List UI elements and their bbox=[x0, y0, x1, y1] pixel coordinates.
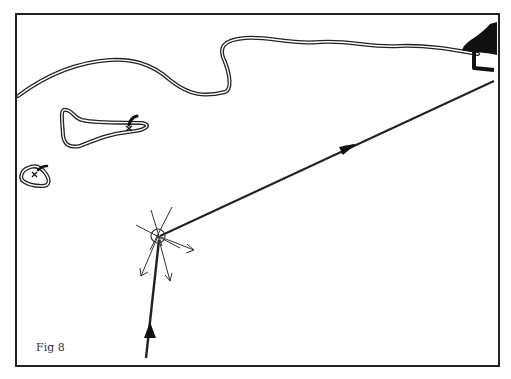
impact-point bbox=[136, 207, 194, 281]
island-large bbox=[62, 110, 147, 147]
coastline bbox=[18, 38, 478, 96]
figure-diagram bbox=[0, 0, 511, 379]
marker-x-icon bbox=[32, 172, 37, 177]
arrowhead-icon bbox=[144, 322, 156, 338]
incoming-ray bbox=[144, 240, 159, 358]
figure-caption: Fig 8 bbox=[36, 341, 65, 354]
outgoing-ray bbox=[160, 81, 494, 236]
island-small bbox=[21, 166, 48, 186]
headland bbox=[462, 22, 497, 70]
